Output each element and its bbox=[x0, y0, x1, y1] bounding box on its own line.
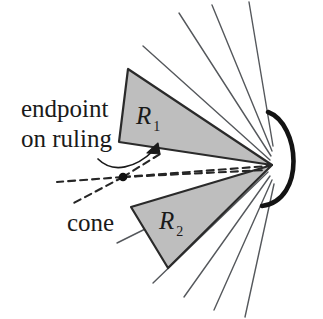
figure-background bbox=[0, 0, 323, 319]
cone-ruling-diagram: endpoint on ruling cone R1 R2 bbox=[0, 0, 323, 319]
endpoint-label-line2: on ruling bbox=[21, 125, 112, 152]
cone-label: cone bbox=[67, 209, 114, 236]
region-2-label-subscript: 2 bbox=[176, 224, 183, 239]
figure-container: endpoint on ruling cone R1 R2 bbox=[0, 0, 323, 319]
region-1-label-base: R bbox=[135, 102, 151, 129]
filled-dot-icon bbox=[119, 173, 128, 182]
region-1-label-subscript: 1 bbox=[153, 119, 160, 134]
region-2-label-base: R bbox=[158, 207, 174, 234]
endpoint-label-line1: endpoint bbox=[21, 95, 109, 122]
